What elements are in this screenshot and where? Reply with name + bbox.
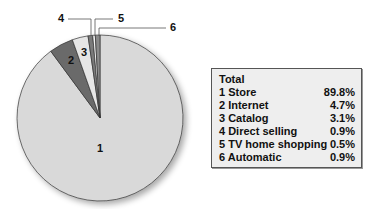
legend-row: 1 Store 89.8% — [219, 86, 355, 99]
legend-label: 3 Catalog — [219, 112, 269, 125]
legend-row: 4 Direct selling 0.9% — [219, 125, 355, 138]
pie-slices — [17, 35, 183, 201]
legend-label: 4 Direct selling — [219, 125, 297, 138]
legend-title: Total — [219, 73, 355, 86]
slice-label-3: 3 — [81, 46, 87, 58]
pie-chart: 123 — [0, 0, 210, 209]
legend-value: 3.1% — [330, 112, 355, 125]
slice-label-2: 2 — [68, 54, 74, 66]
callout-label-5: 5 — [118, 12, 124, 24]
slice-label-1: 1 — [97, 142, 103, 154]
legend-row: 2 Internet 4.7% — [219, 99, 355, 112]
callout-label-6: 6 — [170, 21, 176, 33]
legend-row: 6 Automatic 0.9% — [219, 151, 355, 164]
legend-row: 3 Catalog 3.1% — [219, 112, 355, 125]
legend-value: 89.8% — [324, 86, 355, 99]
callout-label-4: 4 — [58, 12, 64, 24]
legend-label: 5 TV home shopping — [219, 138, 327, 151]
callout-lines — [68, 19, 166, 36]
legend-value: 0.9% — [330, 125, 355, 138]
legend-label: 1 Store — [219, 86, 256, 99]
legend-label: 6 Automatic — [219, 151, 282, 164]
legend-label: 2 Internet — [219, 99, 269, 112]
legend-value: 0.5% — [330, 138, 355, 151]
legend-value: 4.7% — [330, 99, 355, 112]
legend-value: 0.9% — [330, 151, 355, 164]
legend-table: Total 1 Store 89.8% 2 Internet 4.7% 3 Ca… — [211, 68, 362, 168]
legend-row: 5 TV home shopping 0.5% — [219, 138, 355, 151]
